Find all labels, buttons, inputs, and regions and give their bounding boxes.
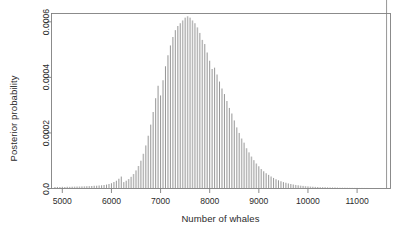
x-tick-label: 9000 [249, 196, 268, 206]
x-tick-label: 5000 [53, 196, 72, 206]
bar-series [55, 0, 387, 188]
x-tick-label: 8000 [200, 196, 219, 206]
y-tick-label: 0.0 [40, 168, 52, 210]
y-tick-label: 0.0004 [40, 56, 52, 98]
y-tick-label: 0.0006 [40, 1, 52, 43]
chart-figure: Posterior probability Number of whales 5… [0, 0, 402, 237]
y-axis-ticks [47, 22, 52, 189]
x-tick-label: 11000 [345, 196, 368, 206]
x-axis-ticks [62, 189, 357, 194]
plot-frame [52, 14, 391, 189]
x-tick-label: 7000 [151, 196, 170, 206]
x-tick-label: 10000 [296, 196, 320, 206]
x-tick-label: 6000 [102, 196, 121, 206]
y-tick-label: 0.0002 [40, 112, 52, 154]
x-axis-title: Number of whales [51, 213, 390, 224]
